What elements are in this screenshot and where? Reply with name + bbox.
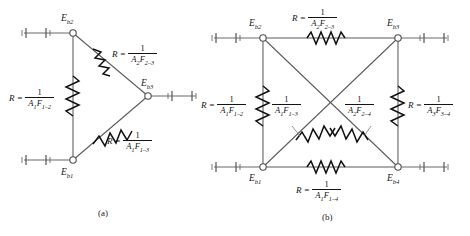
resistance-label-a-r12: R = 1 A1F1–2 (9, 88, 54, 109)
figure-root: Eb2 Eb1 Eb3 R = 1 A1F1–2 R = 1 A2F2–3 R … (0, 0, 470, 236)
fraction-a-r12: 1 A1F1–2 (25, 88, 54, 109)
node-a-eb1 (70, 157, 76, 163)
node-label-a-eb2: Eb2 (61, 14, 73, 25)
subfigure-caption-b: (b) (322, 213, 333, 222)
resistance-label-b-r12: R = 1 A1F1–2 (201, 95, 246, 116)
fraction-a-r23: 1 A2F2–3 (128, 44, 157, 65)
resistance-label-a-r13: R = 1 A1F1–3 (107, 131, 152, 152)
node-b-eb1 (260, 164, 266, 170)
resistance-label-b-r23: R = 1 A2F2–3 (292, 8, 337, 29)
fraction-b-r14: 1 A1F1–4 (312, 180, 341, 201)
node-label-a-eb3: Eb3 (141, 79, 153, 90)
leader-b-r13 (292, 126, 300, 136)
subfigure-caption-a: (a) (98, 209, 108, 218)
node-b-eb2 (260, 35, 266, 41)
node-label-b-eb3: Eb3 (387, 19, 399, 30)
node-b-eb4 (395, 164, 401, 170)
node-label-a-eb1: Eb1 (61, 168, 73, 179)
fraction-b-r13: 1 A1F1–3 (272, 95, 301, 116)
node-a-eb2 (70, 30, 76, 36)
node-label-b-eb2: Eb2 (249, 19, 261, 30)
fraction-b-r23: 1 A2F2–3 (308, 8, 337, 29)
node-b-eb3 (395, 35, 401, 41)
circuit-schematic-svg (0, 0, 470, 236)
resistor-b-r24-zigzag (330, 126, 368, 142)
node-label-b-eb1: Eb1 (249, 174, 261, 185)
resistance-label-a-r23: R = 1 A2F2–3 (112, 44, 157, 65)
fraction-a-r13: 1 A1F1–3 (123, 131, 152, 152)
resistance-label-b-r34: R = 1 A3F3–4 (408, 95, 453, 116)
fraction-b-r34: 1 A3F3–4 (424, 95, 453, 116)
fraction-b-r12: 1 A1F1–2 (217, 95, 246, 116)
resistor-b-r13-zigzag (296, 126, 335, 142)
resistance-label-b-r14: R = 1 A1F1–4 (296, 180, 341, 201)
resistance-label-b-r24: 1 A2F2–4 (345, 95, 374, 116)
fraction-b-r24: 1 A2F2–4 (345, 95, 374, 116)
leader-b-r24 (364, 126, 371, 136)
resistance-label-b-r13: 1 A1F1–3 (272, 95, 301, 116)
node-label-b-eb4: Eb4 (387, 174, 399, 185)
node-a-eb3 (145, 93, 151, 99)
